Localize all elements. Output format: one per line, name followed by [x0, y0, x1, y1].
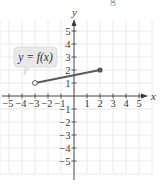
- closed-endpoint-icon: [97, 67, 102, 72]
- open-endpoint-icon: [33, 81, 38, 86]
- y-tick-label: −1: [59, 104, 70, 115]
- cropped-caption-fragment: g: [110, 0, 116, 6]
- y-axis-label: y: [71, 6, 77, 18]
- coordinate-plane: g −5−4−3−2−112345−5−4−3−2−112345 y = f(x…: [0, 0, 160, 184]
- grid-lines: [0, 20, 152, 174]
- callout-label: y = f(x): [17, 51, 53, 64]
- y-tick-label: 4: [65, 39, 71, 50]
- x-axis-arrow-icon: [141, 94, 148, 99]
- y-tick-label: 5: [65, 26, 70, 37]
- x-axis-label: x: [150, 90, 156, 102]
- x-tick-label: 3: [110, 98, 115, 109]
- y-tick-label: 3: [65, 52, 70, 63]
- x-tick-label: −5: [2, 98, 13, 109]
- x-tick-label: −2: [41, 98, 52, 109]
- function-graph: g −5−4−3−2−112345−5−4−3−2−112345 y = f(x…: [0, 0, 160, 184]
- x-tick-label: 2: [97, 98, 102, 109]
- y-tick-label: 2: [65, 65, 70, 76]
- y-tick-label: −3: [59, 130, 70, 141]
- y-tick-label: −4: [59, 143, 71, 154]
- y-tick-label: −2: [59, 117, 70, 128]
- x-tick-label: −4: [15, 98, 27, 109]
- x-tick-label: 5: [136, 98, 141, 109]
- x-tick-label: 1: [84, 98, 89, 109]
- y-tick-label: 1: [65, 78, 70, 89]
- x-tick-label: −3: [28, 98, 39, 109]
- x-tick-label: 4: [123, 98, 129, 109]
- y-tick-label: −5: [59, 156, 70, 167]
- y-axis-arrow-icon: [72, 19, 77, 26]
- function-callout: y = f(x): [14, 47, 57, 75]
